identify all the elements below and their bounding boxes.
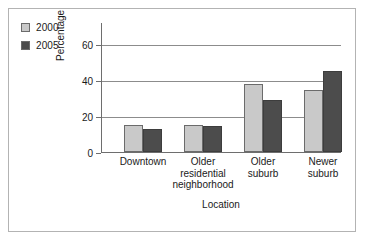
y-tick-20 — [96, 117, 101, 118]
x-axis-line — [101, 152, 341, 153]
bar-2005-newer-suburb[interactable] — [323, 71, 342, 152]
bar-2000-downtown[interactable] — [124, 125, 143, 152]
bar-2000-older-suburb[interactable] — [244, 84, 263, 152]
bar-group-older-suburb: Older suburb — [233, 23, 293, 152]
bars — [293, 23, 353, 152]
bar-2005-older-residential[interactable] — [203, 126, 222, 152]
y-tick-label-20: 20 — [69, 112, 93, 123]
legend-swatch-2000 — [21, 23, 30, 32]
bar-2000-older-residential[interactable] — [184, 125, 203, 152]
bar-group-downtown: Downtown — [113, 23, 173, 152]
x-axis-label: Location — [101, 199, 341, 210]
y-tick-label-40: 40 — [69, 76, 93, 87]
y-tick-40 — [96, 81, 101, 82]
bar-2000-newer-suburb[interactable] — [304, 90, 323, 152]
plot-area: 0 20 40 60 Downtown Older residential ne… — [101, 23, 341, 153]
x-tick-label-newer-suburb: Newer suburb — [287, 156, 359, 179]
y-tick-label-60: 60 — [69, 40, 93, 51]
y-tick-0 — [96, 153, 101, 154]
bars — [233, 23, 293, 152]
y-axis-label: Percentage — [55, 10, 66, 61]
bar-2005-downtown[interactable] — [143, 129, 162, 152]
legend-swatch-2005 — [21, 41, 30, 50]
bar-group-newer-suburb: Newer suburb — [293, 23, 353, 152]
bar-2005-older-suburb[interactable] — [263, 100, 282, 152]
bars — [113, 23, 173, 152]
chart-figure: 2000 2005 Percentage 0 20 40 60 Downtown — [8, 8, 356, 232]
y-axis-line — [101, 23, 102, 153]
bar-group-older-residential: Older residential neighborhood — [173, 23, 233, 152]
y-tick-60 — [96, 45, 101, 46]
y-tick-label-0: 0 — [69, 148, 93, 159]
bars — [173, 23, 233, 152]
